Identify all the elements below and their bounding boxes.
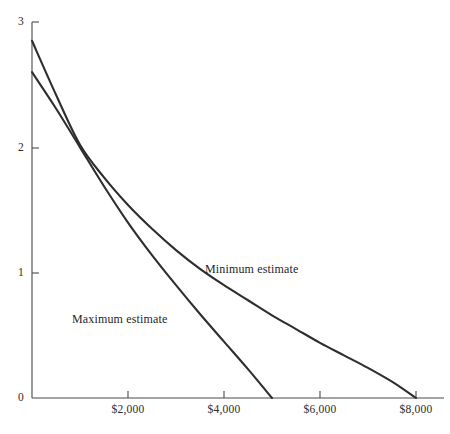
plot-area [0, 0, 450, 434]
chart-container: 3 2 1 0 $2,000 $4,000 $6,000 $8,000 Mini… [0, 0, 450, 434]
x-axis-tick-label-4000: $4,000 [189, 403, 259, 415]
y-axis-tick-label-3: 3 [2, 15, 24, 27]
series-line-minimum-estimate [32, 41, 416, 398]
series-annotation-minimum-estimate: Minimum estimate [205, 262, 298, 277]
x-axis-tick-label-2000: $2,000 [93, 403, 163, 415]
series-annotation-maximum-estimate: Maximum estimate [72, 312, 167, 327]
x-axis-tick-label-6000: $6,000 [285, 403, 355, 415]
y-axis-tick-label-2: 2 [2, 141, 24, 153]
y-axis-tick-label-0: 0 [2, 391, 24, 403]
y-axis-tick-label-1: 1 [2, 266, 24, 278]
x-axis-tick-label-8000: $8,000 [381, 403, 450, 415]
